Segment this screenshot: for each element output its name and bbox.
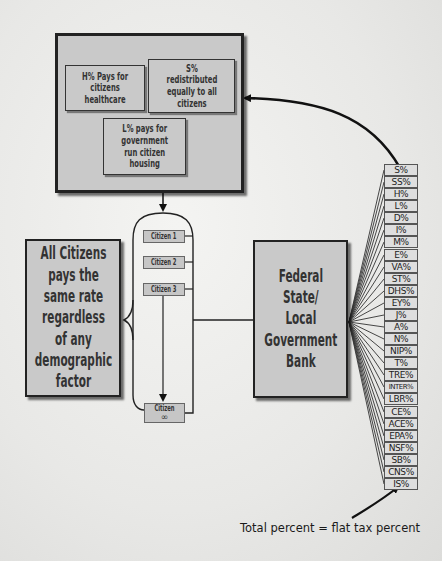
tax-item: T% bbox=[384, 357, 418, 369]
tax-item-label: N% bbox=[394, 335, 408, 344]
housing-text: L% pays for government run citizen housi… bbox=[121, 123, 168, 169]
tax-item: I% bbox=[384, 224, 418, 236]
tax-item: ACE% bbox=[384, 418, 418, 430]
citizen-infinity: Citizen ∞ bbox=[144, 403, 185, 423]
citizen-2: Citizen 2 bbox=[143, 256, 185, 269]
tax-item: H% bbox=[384, 188, 418, 200]
tax-item-label: CE% bbox=[391, 408, 410, 417]
citizen-1-label: Citizen 1 bbox=[151, 233, 177, 241]
tax-item: TRE% bbox=[384, 369, 418, 381]
tax-item-label: NSF% bbox=[389, 444, 414, 453]
citizen-3-label: Citizen 3 bbox=[151, 286, 177, 294]
tax-item-label: E% bbox=[394, 251, 407, 260]
flat-rate-text: All Citizens pays the same rate regardle… bbox=[34, 243, 111, 392]
tax-item: CNS% bbox=[384, 466, 418, 478]
government-bank-box: Federal State/ Local Government Bank bbox=[253, 240, 348, 398]
tax-item-label: L% bbox=[395, 202, 408, 211]
citizen-infinity-label: Citizen bbox=[154, 405, 174, 413]
tax-fan-lines bbox=[349, 170, 384, 484]
redistribution-arrow bbox=[245, 98, 400, 168]
citizen-2-label: Citizen 2 bbox=[151, 259, 177, 267]
tax-item: A% bbox=[384, 321, 418, 333]
tax-item: L% bbox=[384, 200, 418, 212]
tax-item-label: D% bbox=[394, 214, 409, 223]
tax-item: EPA% bbox=[384, 430, 418, 442]
tax-item-label: ST% bbox=[392, 275, 411, 284]
citizen-1: Citizen 1 bbox=[143, 230, 185, 243]
tax-item: DHS% bbox=[384, 285, 418, 297]
tax-item-label: SB% bbox=[391, 456, 410, 465]
tax-item: IS% bbox=[384, 478, 418, 490]
tax-item-label: ACE% bbox=[389, 420, 414, 429]
tax-item: N% bbox=[384, 333, 418, 345]
tax-item-label: J% bbox=[396, 311, 406, 320]
tax-item: M% bbox=[384, 236, 418, 248]
flat-rate-box: All Citizens pays the same rate regardle… bbox=[25, 239, 121, 397]
tax-item: E% bbox=[384, 249, 418, 261]
tax-item: INTER% bbox=[384, 381, 418, 393]
tax-item-label: H% bbox=[394, 190, 409, 199]
tax-item-label: DHS% bbox=[388, 287, 414, 296]
tax-item-label: I% bbox=[396, 226, 406, 235]
infinity-icon: ∞ bbox=[161, 413, 169, 422]
brace bbox=[124, 300, 133, 340]
citizen-bus bbox=[163, 213, 193, 413]
tax-item: VA% bbox=[384, 261, 418, 273]
tax-item: NSF% bbox=[384, 442, 418, 454]
tax-item-label: IS% bbox=[393, 480, 409, 489]
tax-item-label: INTER% bbox=[389, 384, 414, 391]
tax-item-label: CNS% bbox=[388, 468, 414, 477]
redistribution-box: S% redistributed equally to all citizens bbox=[148, 59, 235, 113]
tax-item-label: M% bbox=[393, 238, 409, 247]
tax-item: ST% bbox=[384, 273, 418, 285]
benefits-box: H% Pays for citizens healthcare S% redis… bbox=[55, 33, 244, 193]
tax-item-label: SS% bbox=[392, 178, 411, 187]
tax-item: S% bbox=[384, 164, 418, 176]
tax-item: CE% bbox=[384, 406, 418, 418]
tax-item-label: VA% bbox=[391, 263, 410, 272]
tax-item-label: LBR% bbox=[389, 395, 413, 404]
tax-item-label: S% bbox=[394, 166, 407, 175]
citizen-3: Citizen 3 bbox=[143, 283, 185, 296]
tax-item: LBR% bbox=[384, 393, 418, 405]
government-bank-text: Federal State/ Local Government Bank bbox=[264, 266, 337, 373]
tax-item-label: NIP% bbox=[390, 347, 412, 356]
tax-item-label: EPA% bbox=[389, 432, 413, 441]
tax-item: SB% bbox=[384, 454, 418, 466]
tax-item-label: T% bbox=[394, 359, 407, 368]
tax-item: EY% bbox=[384, 297, 418, 309]
tax-item-label: A% bbox=[394, 323, 408, 332]
redistribution-text: S% redistributed equally to all citizens bbox=[166, 63, 217, 109]
caption-arrow bbox=[352, 487, 398, 518]
tax-item: J% bbox=[384, 309, 418, 321]
healthcare-box: H% Pays for citizens healthcare bbox=[65, 65, 145, 111]
tax-item-label: EY% bbox=[392, 299, 411, 308]
caption: Total percent = flat tax percent bbox=[240, 521, 420, 535]
tax-item: D% bbox=[384, 212, 418, 224]
tax-item-label: TRE% bbox=[389, 371, 413, 380]
tax-item: NIP% bbox=[384, 345, 418, 357]
tax-item: SS% bbox=[384, 176, 418, 188]
healthcare-text: H% Pays for citizens healthcare bbox=[82, 71, 128, 106]
housing-box: L% pays for government run citizen housi… bbox=[103, 118, 186, 175]
